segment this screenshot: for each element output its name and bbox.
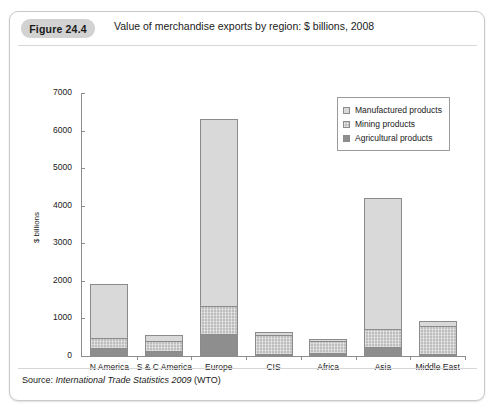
figure-header: Figure 24.4 Value of merchandise exports… [10, 12, 484, 45]
y-tick-label: 0 [32, 350, 72, 360]
y-tick-label: 3000 [32, 237, 72, 247]
y-tick-label: 1000 [32, 312, 72, 322]
bar-segment [309, 353, 347, 356]
legend-label-mining: Mining products [355, 119, 415, 129]
source-publication: International Trade Statistics 2009 [56, 375, 192, 385]
legend-swatch-mining-icon [343, 121, 350, 128]
x-tick-mark [246, 356, 247, 360]
legend-label-agricultural: Agricultural products [355, 133, 432, 143]
x-axis-label: S & C America [137, 362, 192, 372]
bar-group [145, 335, 183, 356]
y-tick-mark [81, 356, 85, 357]
bar-group [255, 332, 293, 356]
bar-segment [255, 335, 293, 354]
x-tick-mark [137, 356, 138, 360]
x-axis-label: Asia [356, 362, 411, 372]
bar-segment [200, 119, 238, 306]
bar-segment [90, 348, 128, 356]
x-tick-mark [356, 356, 357, 360]
legend-item-manufactured: Manufactured products [343, 103, 442, 117]
chart-legend: Manufactured products Mining products Ag… [337, 97, 450, 151]
bar-group [309, 339, 347, 356]
bar-segment [90, 284, 128, 338]
footer-divider [18, 368, 477, 369]
bar-segment [419, 326, 457, 354]
x-axis-line [81, 356, 465, 357]
y-tick-label: 6000 [32, 125, 72, 135]
bar-segment [255, 354, 293, 356]
bar-segment [90, 338, 128, 349]
legend-swatch-agricultural-icon [343, 135, 350, 142]
y-tick-label: 2000 [32, 275, 72, 285]
source-caption: Source: International Trade Statistics 2… [22, 375, 221, 385]
chart-plot-area: $ billions 01000200030004000500060007000… [10, 45, 486, 368]
bar-segment [419, 354, 457, 356]
source-suffix: (WTO) [194, 375, 221, 385]
x-tick-mark [410, 356, 411, 360]
figure-title: Value of merchandise exports by region: … [114, 20, 374, 32]
bar-segment [200, 334, 238, 356]
legend-label-manufactured: Manufactured products [355, 105, 442, 115]
legend-item-mining: Mining products [343, 117, 442, 131]
x-tick-mark [465, 356, 466, 360]
x-axis-label: Africa [301, 362, 356, 372]
bar-segment [145, 341, 183, 350]
bar-group [200, 119, 238, 356]
bar-segment [364, 198, 402, 329]
bar-segment [200, 306, 238, 333]
legend-swatch-manufactured-icon [343, 107, 350, 114]
bar-group [90, 284, 128, 356]
x-tick-mark [191, 356, 192, 360]
bar-group [419, 321, 457, 356]
bar-segment [364, 329, 402, 346]
x-axis-label: Europe [191, 362, 246, 372]
y-tick-label: 7000 [32, 87, 72, 97]
figure-card: Figure 24.4 Value of merchandise exports… [9, 11, 485, 401]
source-prefix: Source: [22, 375, 53, 385]
y-tick-label: 4000 [32, 200, 72, 210]
bar-group [364, 198, 402, 356]
legend-item-agricultural: Agricultural products [343, 131, 442, 145]
figure-number-badge: Figure 24.4 [21, 19, 95, 38]
bar-segment [364, 347, 402, 356]
x-axis-label: N America [82, 362, 137, 372]
bar-segment [309, 341, 347, 353]
x-axis-label: CIS [246, 362, 301, 372]
x-tick-mark [301, 356, 302, 360]
x-axis-label: Middle East [410, 362, 465, 372]
y-tick-label: 5000 [32, 162, 72, 172]
bar-segment [145, 351, 183, 356]
